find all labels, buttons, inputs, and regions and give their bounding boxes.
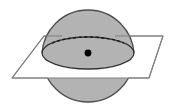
sphere-plane-diagram-svg: Sphere intersected by a plane through it… (0, 0, 175, 112)
diagram-figure: Sphere intersected by a plane through it… (0, 0, 175, 112)
sphere-center-dot (85, 50, 92, 57)
